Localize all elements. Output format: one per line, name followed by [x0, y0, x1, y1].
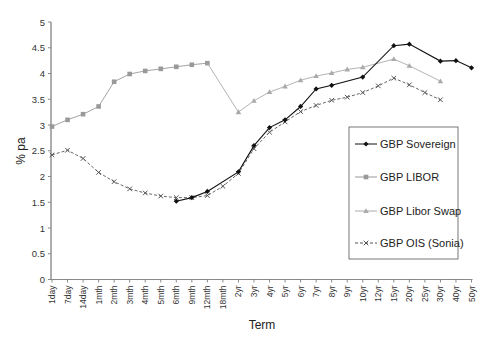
triangle-marker-icon	[391, 56, 397, 61]
square-marker-icon	[127, 72, 132, 77]
triangle-marker-icon	[236, 109, 242, 114]
series-gbp-libor	[50, 61, 210, 129]
y-tick-label: 1	[40, 223, 45, 234]
x-tick-label: 7day	[63, 285, 73, 304]
x-tick-label: 3mth	[125, 285, 135, 304]
square-marker-icon	[112, 79, 117, 84]
x-marker-icon	[407, 83, 412, 88]
x-tick-label: 7yr	[311, 285, 321, 297]
x-tick-label: 2mth	[109, 285, 119, 304]
x-tick-label: 14day	[78, 285, 88, 309]
square-marker-icon	[65, 118, 70, 123]
x-marker-icon	[81, 156, 86, 161]
x-tick-label: 18mth	[218, 285, 228, 309]
square-marker-icon	[96, 104, 101, 109]
x-tick-label: 9yr	[342, 285, 352, 297]
x-tick-label: 8yr	[327, 285, 337, 297]
x-tick-label: 10yr	[358, 285, 368, 302]
x-tick-label: 1day	[47, 285, 57, 304]
x-tick-label: 4mth	[140, 285, 150, 304]
diamond-marker-icon	[438, 59, 443, 64]
triangle-marker-icon	[251, 98, 257, 103]
diamond-marker-icon	[453, 58, 458, 63]
y-tick-label: 4.5	[32, 42, 45, 53]
y-tick-label: 1.5	[32, 197, 45, 208]
legend-label: GBP Sovereign	[380, 138, 456, 150]
y-tick-label: 3.5	[32, 94, 45, 105]
triangle-marker-icon	[438, 78, 444, 83]
square-marker-icon	[174, 65, 179, 70]
square-marker-icon	[143, 69, 148, 74]
series-gbp-libor-swap	[207, 56, 443, 114]
x-marker-icon	[112, 179, 117, 184]
x-tick-label: 12yr	[373, 285, 383, 302]
legend: GBP SovereignGBP LIBORGBP Libor SwapGBP …	[349, 127, 464, 259]
x-tick-label: 12mth	[202, 285, 212, 309]
square-marker-icon	[50, 124, 55, 129]
square-marker-icon	[190, 62, 195, 67]
x-tick-label: 25yr	[420, 285, 430, 302]
y-tick-label: 0.5	[32, 248, 45, 259]
diamond-marker-icon	[407, 42, 412, 47]
x-tick-label: 1mth	[94, 285, 104, 304]
x-marker-icon	[360, 90, 365, 95]
x-tick-label: 2yr	[233, 285, 243, 297]
square-marker-icon	[364, 175, 369, 180]
x-marker-icon	[221, 184, 226, 189]
x-tick-label: 9mth	[187, 285, 197, 304]
y-tick-label: 0	[40, 274, 45, 285]
square-marker-icon	[81, 112, 86, 117]
x-tick-label: 6yr	[296, 285, 306, 297]
y-tick-label: 3	[40, 120, 45, 131]
x-marker-icon	[96, 170, 101, 175]
y-tick-label: 4	[40, 68, 45, 79]
yield-curve-chart: 00.511.522.533.544.55 1day7day14day1mth2…	[0, 0, 492, 342]
y-axis-title: % pa	[14, 137, 28, 165]
x-tick-label: 30yr	[435, 285, 445, 302]
square-marker-icon	[158, 67, 163, 72]
x-tick-label: 15yr	[389, 285, 399, 302]
square-marker-icon	[205, 61, 210, 66]
diamond-marker-icon	[469, 65, 474, 70]
x-marker-icon	[376, 84, 381, 89]
x-tick-label: 40yr	[451, 285, 461, 302]
x-tick-label: 6mth	[171, 285, 181, 304]
diamond-marker-icon	[329, 83, 334, 88]
x-tick-label: 3yr	[249, 285, 259, 297]
x-tick-label: 20yr	[404, 285, 414, 302]
legend-label: GBP OIS (Sonia)	[380, 237, 464, 249]
x-tick-label: 50yr	[467, 285, 477, 302]
x-tick-label: 5mth	[156, 285, 166, 304]
x-marker-icon	[267, 130, 272, 135]
x-tick-label: 4yr	[265, 285, 275, 297]
y-tick-label: 2	[40, 171, 45, 182]
y-axis: 00.511.522.533.544.55	[32, 17, 51, 286]
series-line	[207, 59, 440, 112]
x-marker-icon	[314, 103, 319, 108]
legend-label: GBP Libor Swap	[380, 205, 461, 217]
y-tick-label: 5	[40, 17, 45, 28]
x-tick-label: 5yr	[280, 285, 290, 297]
x-marker-icon	[65, 148, 70, 153]
legend-label: GBP LIBOR	[380, 171, 439, 183]
x-marker-icon	[392, 76, 397, 81]
x-marker-icon	[298, 109, 303, 114]
x-marker-icon	[423, 90, 428, 95]
x-marker-icon	[438, 97, 443, 102]
y-tick-label: 2.5	[32, 145, 45, 156]
x-axis: 1day7day14day1mth2mth3mth4mth5mth6mth9mt…	[47, 280, 477, 310]
x-axis-title: Term	[249, 318, 276, 332]
